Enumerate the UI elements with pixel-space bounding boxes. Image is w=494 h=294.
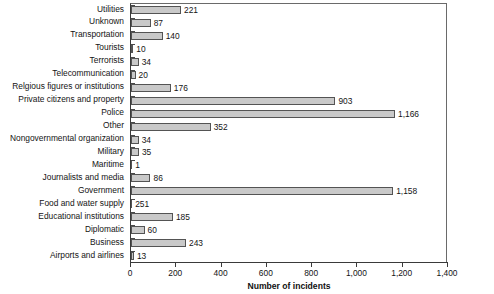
bar[interactable] — [131, 84, 171, 92]
bar-value-label: 20 — [139, 70, 148, 80]
x-axis-tick — [175, 262, 176, 267]
x-axis-tick — [221, 262, 222, 267]
bar-value-label: 1,158 — [396, 186, 417, 196]
bar-row[interactable]: 86 — [131, 172, 448, 186]
category-label: Telecommunication — [0, 69, 124, 78]
x-axis-title: Number of incidents — [130, 281, 448, 291]
x-axis-tick — [130, 262, 131, 267]
bar-value-label: 221 — [184, 5, 198, 15]
bar-row[interactable]: 243 — [131, 237, 448, 251]
bar[interactable] — [131, 110, 395, 118]
plot-area: 221871401034201769031,16635234351861,158… — [130, 3, 447, 262]
bar[interactable] — [131, 213, 173, 221]
x-axis-tick-label: 1,200 — [391, 268, 412, 278]
x-axis-tick — [266, 262, 267, 267]
bar-value-label: 10 — [136, 44, 145, 54]
category-label: Journalists and media — [0, 173, 124, 182]
bar-row[interactable]: 34 — [131, 134, 448, 148]
bar-row[interactable]: 221 — [131, 4, 448, 18]
bar[interactable] — [131, 97, 335, 105]
bar[interactable] — [131, 19, 151, 27]
bar[interactable] — [131, 187, 393, 195]
category-label: Utilities — [0, 5, 124, 14]
category-label: Relgious figures or institutions — [0, 82, 124, 91]
bar-value-label: 903 — [338, 96, 352, 106]
x-axis-line — [130, 262, 448, 263]
bar-value-label: 35 — [142, 147, 151, 157]
bar[interactable] — [131, 148, 139, 156]
bar-value-label: 140 — [166, 31, 180, 41]
bar[interactable] — [131, 6, 181, 14]
bar-row[interactable]: 60 — [131, 224, 448, 238]
category-label: Nongovernmental organization — [0, 134, 124, 143]
x-axis-tick-label: 400 — [214, 268, 228, 278]
x-axis-tick — [447, 262, 448, 267]
bar-row[interactable]: 34 — [131, 56, 448, 70]
bar-value-label: 13 — [137, 251, 146, 261]
x-axis-tick — [402, 262, 403, 267]
category-label: Business — [0, 238, 124, 247]
category-label: Unknown — [0, 17, 124, 26]
bar-chart: UtilitiesUnknownTransportationTouristsTe… — [0, 0, 494, 294]
bar-row[interactable]: 185 — [131, 211, 448, 225]
category-label: Terrorists — [0, 56, 124, 65]
bar-row[interactable]: 87 — [131, 17, 448, 31]
category-label: Police — [0, 108, 124, 117]
bar-row[interactable]: 1 — [131, 159, 448, 173]
bar[interactable] — [131, 45, 133, 53]
bar-value-label: 34 — [142, 135, 151, 145]
bar[interactable] — [131, 58, 139, 66]
bar-row[interactable]: 176 — [131, 82, 448, 96]
bar-value-label: 352 — [214, 122, 228, 132]
bar[interactable] — [131, 174, 150, 182]
bar-value-label: 176 — [174, 83, 188, 93]
bar-row[interactable]: 20 — [131, 69, 448, 83]
bar-row[interactable]: 251 — [131, 198, 448, 212]
x-axis-tick-label: 0 — [128, 268, 133, 278]
bar-row[interactable]: 140 — [131, 30, 448, 44]
category-label: Maritime — [0, 160, 124, 169]
bar-value-label: 34 — [142, 57, 151, 67]
bar-row[interactable]: 35 — [131, 146, 448, 160]
bar-row[interactable]: 352 — [131, 121, 448, 135]
category-label: Other — [0, 121, 124, 130]
bar[interactable] — [131, 136, 139, 144]
category-label: Educational institutions — [0, 212, 124, 221]
bar[interactable] — [131, 252, 134, 260]
category-label: Tourists — [0, 43, 124, 52]
bar[interactable] — [131, 32, 163, 40]
x-axis-tick-label: 200 — [168, 268, 182, 278]
bar[interactable] — [131, 226, 145, 234]
bar-row[interactable]: 903 — [131, 95, 448, 109]
bar[interactable] — [131, 200, 132, 208]
category-label: Private citizens and property — [0, 95, 124, 104]
x-axis-tick-label: 1,000 — [346, 268, 367, 278]
bar-row[interactable]: 1,158 — [131, 185, 448, 199]
bar-value-label: 243 — [189, 238, 203, 248]
bar-value-label: 185 — [176, 212, 190, 222]
bar[interactable] — [131, 161, 132, 169]
bar-value-label: 60 — [148, 225, 157, 235]
category-label: Military — [0, 147, 124, 156]
x-axis-tick — [356, 262, 357, 267]
category-label: Food and water supply — [0, 199, 124, 208]
bar[interactable] — [131, 123, 211, 131]
bar[interactable] — [131, 239, 186, 247]
bar-row[interactable]: 10 — [131, 43, 448, 57]
category-label: Airports and airlines — [0, 251, 124, 260]
category-label: Transportation — [0, 30, 124, 39]
bar-value-label: 251 — [135, 199, 149, 209]
x-axis-tick-label: 800 — [304, 268, 318, 278]
x-axis-tick — [311, 262, 312, 267]
category-label: Diplomatic — [0, 225, 124, 234]
bar-value-label: 1,166 — [398, 109, 419, 119]
x-axis-tick-label: 1,400 — [437, 268, 458, 278]
bar[interactable] — [131, 71, 136, 79]
x-axis-tick-label: 600 — [259, 268, 273, 278]
bar-value-label: 87 — [154, 18, 163, 28]
bar-row[interactable]: 1,166 — [131, 108, 448, 122]
bar-value-label: 1 — [135, 160, 140, 170]
bar-value-label: 86 — [153, 173, 162, 183]
category-label: Government — [0, 186, 124, 195]
category-axis-labels: UtilitiesUnknownTransportationTouristsTe… — [0, 0, 127, 264]
